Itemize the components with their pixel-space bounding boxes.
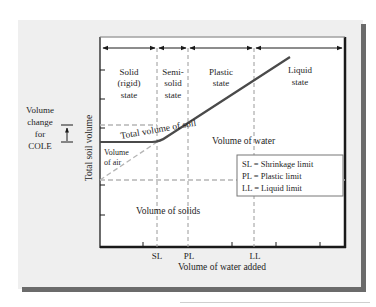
legend-ll: LL = Liquid limit <box>242 183 303 193</box>
water-region-label: Volume of water <box>212 136 276 146</box>
state-semisolid-line1: Semi- <box>162 67 184 77</box>
solids-region-label: Volume of solids <box>136 206 201 216</box>
state-plastic-line2: state <box>213 78 230 88</box>
cole-line1: Volume <box>26 105 54 115</box>
cole-line2: change <box>27 117 52 127</box>
cole-line3: for <box>35 129 46 139</box>
legend-sl: SL = Shrinkage limit <box>242 159 314 169</box>
cole-line4: COLE <box>28 141 52 151</box>
state-liquid-line1: Liquid <box>288 65 312 75</box>
state-semisolid-line2: solid <box>164 78 182 88</box>
cole-annotation: Volume change for COLE <box>26 105 73 151</box>
legend: SL = Shrinkage limit PL = Plastic limit … <box>237 155 343 196</box>
soil-consistency-diagram: Solid (rigid) state Semi- solid state Pl… <box>0 0 376 307</box>
air-region-label-1: Volume <box>104 148 129 157</box>
state-liquid-line2: state <box>292 77 309 87</box>
y-axis-label: Total soil volume <box>84 115 94 181</box>
legend-pl: PL = Plastic limit <box>242 171 302 181</box>
x-tick-pl: PL <box>184 251 195 261</box>
state-solid-line1: Solid <box>119 67 139 77</box>
x-tick-labels: SL PL LL <box>152 251 261 261</box>
state-solid-line3: state <box>121 90 138 100</box>
x-tick-ll: LL <box>250 251 261 261</box>
x-tick-sl: SL <box>152 251 163 261</box>
x-axis-label: Volume of water added <box>178 262 266 272</box>
state-plastic-line1: Plastic <box>209 67 233 77</box>
air-region-label-2: of air <box>104 158 121 167</box>
state-solid-line2: (rigid) <box>118 78 141 88</box>
state-semisolid-line3: state <box>165 90 182 100</box>
